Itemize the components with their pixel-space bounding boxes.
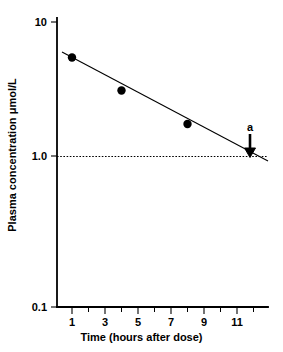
x-tick-label-3: 3 bbox=[102, 316, 108, 328]
annotation-label-a: a bbox=[247, 121, 254, 133]
x-tick-label-7: 7 bbox=[168, 316, 174, 328]
x-tick-label-11: 11 bbox=[231, 316, 243, 328]
y-tick-label-bottom: 0.1 bbox=[32, 301, 47, 313]
data-point bbox=[117, 86, 125, 94]
y-tick-label-top: 10 bbox=[35, 16, 47, 28]
chart-canvas: 10 1.0 0.1 1 3 5 7 9 11 a bbox=[0, 0, 283, 352]
x-tick-label-9: 9 bbox=[201, 316, 207, 328]
x-tick-label-1: 1 bbox=[69, 316, 75, 328]
y-axis-title-wrapper: Plasma concentration μmol/L bbox=[0, 0, 24, 310]
plasma-concentration-chart: 10 1.0 0.1 1 3 5 7 9 11 a Time (hours af… bbox=[0, 0, 283, 352]
data-point bbox=[68, 53, 76, 61]
x-tick-label-5: 5 bbox=[135, 316, 141, 328]
data-point bbox=[183, 120, 191, 128]
regression-line bbox=[62, 52, 268, 161]
y-tick-label-middle: 1.0 bbox=[32, 150, 47, 162]
x-axis-title: Time (hours after dose) bbox=[0, 331, 283, 343]
y-axis-title: Plasma concentration μmol/L bbox=[6, 78, 18, 231]
